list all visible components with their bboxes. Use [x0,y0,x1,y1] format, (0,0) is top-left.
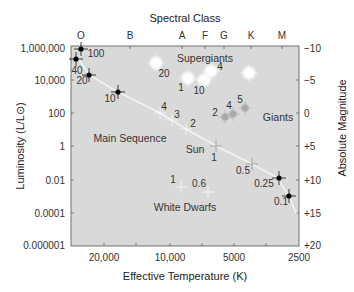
x-axis-title: Effective Temperature (K) [123,270,247,282]
magnitude-tick-label: 0 [304,108,310,119]
mass-label: 1 [211,152,217,163]
mass-label: 0.5 [236,165,250,176]
spectral-class-label: F [202,30,208,41]
spectral-class-label: K [248,30,255,41]
y2-axis-title: Absolute Magnitude [336,79,348,176]
mass-label: 1 [170,174,176,185]
mass-label: 3 [174,109,180,120]
magnitude-tick-label: +5 [304,141,316,152]
region-label: Giants [263,111,293,123]
region-label: Main Sequence [94,132,167,144]
temperature-tick-label: 2500 [288,252,311,263]
region-label: White Dwarfs [154,201,216,213]
spectral-class-label: M [278,30,286,41]
temperature-tick-label: 20,000 [89,252,120,263]
mass-label: 2 [190,118,196,129]
y-axis-title: Luminosity (L/L⊙) [14,102,26,189]
magnitude-tick-label: +10 [304,175,321,186]
mass-label: 4 [226,100,232,111]
luminosity-tick-label: 1,000,000 [21,43,66,54]
temperature-tick-label: 10,000 [155,252,186,263]
mass-label: 1 [178,82,184,93]
mass-label: 100 [88,48,105,59]
mass-label: 2 [212,107,218,118]
mass-label: 20 [76,75,88,86]
mass-label: 5 [237,94,243,105]
spectral-class-label: O [77,30,85,41]
magnitude-tick-label: +15 [304,208,321,219]
spectral-class-label: A [179,30,186,41]
mass-label: 0.1 [274,196,288,207]
luminosity-tick-label: 0.000001 [23,240,65,251]
magnitude-ticks: −10−50+5+10+15+20 [296,43,321,251]
magnitude-tick-label: −10 [304,43,321,54]
mass-label: 10 [193,85,205,96]
temperature-tick-label: 5000 [223,252,246,263]
magnitude-tick-label: −5 [304,75,316,86]
mass-label: 10 [104,93,116,104]
mass-label: 0.6 [192,178,206,189]
luminosity-tick-label: 0.0001 [34,208,65,219]
luminosity-tick-label: 0.01 [46,175,66,186]
mass-label: 0.25 [254,178,274,189]
region-label: Supergiants [177,52,233,64]
magnitude-tick-label: +20 [304,240,321,251]
top-axis-title: Spectral Class [150,12,221,24]
region-label: Sun [186,143,205,155]
hr-diagram: Spectral Class Effective Temperature (K)… [0,0,354,292]
luminosity-tick-label: 100 [48,108,65,119]
spectral-class-label: B [127,30,134,41]
mass-label: 20 [158,68,170,79]
luminosity-ticks: 1,000,00010,00010010.010.00010.000001 [21,43,75,251]
spectral-class-label: G [220,30,228,41]
mass-label: 4 [161,101,167,112]
luminosity-tick-label: 1 [59,141,65,152]
luminosity-tick-label: 10,000 [34,75,65,86]
